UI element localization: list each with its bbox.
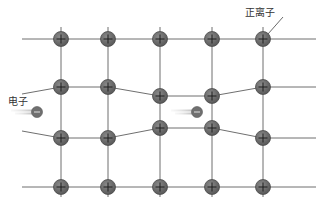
positive-ion bbox=[256, 80, 271, 95]
electron bbox=[32, 107, 43, 118]
positive-ion-label: 正离子 bbox=[245, 4, 275, 19]
positive-ion bbox=[205, 32, 220, 47]
positive-ion bbox=[54, 180, 69, 195]
positive-ion bbox=[153, 121, 168, 136]
positive-ion bbox=[153, 180, 168, 195]
positive-ion bbox=[205, 121, 220, 136]
electrons bbox=[32, 107, 203, 118]
electron bbox=[192, 107, 203, 118]
motion-trail bbox=[11, 110, 33, 112]
positive-ion bbox=[256, 180, 271, 195]
positive-ion bbox=[256, 131, 271, 146]
positive-ion bbox=[101, 32, 116, 47]
electron-label: 电子 bbox=[8, 93, 28, 108]
motion-trail bbox=[175, 113, 193, 115]
positive-ion bbox=[205, 89, 220, 104]
motion-trail bbox=[171, 110, 193, 112]
positive-ion bbox=[101, 80, 116, 95]
positive-ion bbox=[205, 180, 220, 195]
positive-ion bbox=[153, 32, 168, 47]
positive-ion bbox=[101, 180, 116, 195]
positive-ions bbox=[54, 32, 271, 195]
positive-ion bbox=[54, 32, 69, 47]
positive-ion bbox=[153, 89, 168, 104]
metal-lattice-diagram bbox=[0, 0, 326, 201]
lattice-lines bbox=[22, 27, 316, 197]
motion-trail bbox=[15, 113, 33, 115]
positive-ion bbox=[54, 131, 69, 146]
label-pointer-line bbox=[268, 17, 283, 34]
positive-ion bbox=[54, 80, 69, 95]
positive-ion bbox=[101, 131, 116, 146]
